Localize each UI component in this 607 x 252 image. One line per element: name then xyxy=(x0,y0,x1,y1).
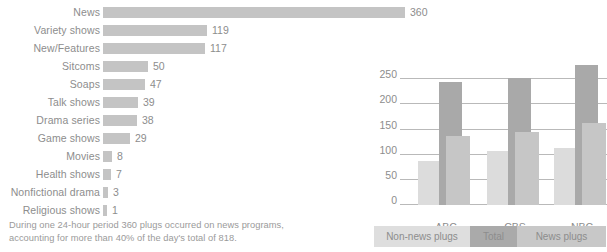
hbar-value-label: 39 xyxy=(143,97,155,108)
hbar-value-label: 1 xyxy=(112,205,118,216)
hbar-bar xyxy=(103,43,205,54)
legend-item-total: Total xyxy=(470,226,517,247)
hbar-bar xyxy=(103,133,130,144)
hbar-value-label: 29 xyxy=(135,133,147,144)
y-axis-tick-label: 250 xyxy=(379,68,397,80)
hbar-row: News 360 xyxy=(0,4,440,21)
y-axis-tick-label: 50 xyxy=(385,169,397,181)
hbar-value-label: 360 xyxy=(410,7,428,18)
hbar-value-label: 7 xyxy=(116,169,122,180)
hbar-category-label: Movies xyxy=(0,151,100,162)
y-axis-tick-label: 0 xyxy=(391,194,397,206)
hbar-value-label: 50 xyxy=(153,61,165,72)
column-bar-non-news-plugs xyxy=(487,151,508,205)
hbar-bar xyxy=(103,97,138,108)
y-axis-tick-label: 150 xyxy=(379,119,397,131)
hbar-bar xyxy=(103,151,112,162)
hbar-category-label: News xyxy=(0,7,100,18)
hbar-bar xyxy=(103,169,111,180)
hbar-category-label: Talk shows xyxy=(0,97,100,108)
legend-item-non-news-plugs: Non-news plugs xyxy=(374,226,470,247)
y-axis-tick-label: 200 xyxy=(379,93,397,105)
column-group-abc xyxy=(418,58,474,205)
column-group-nbc xyxy=(554,58,607,205)
hbar-bar xyxy=(103,115,137,126)
hbar-category-label: Variety shows xyxy=(0,25,100,36)
column-bar-news-plugs xyxy=(582,123,606,205)
chart-legend: Non-news plugs Total News plugs xyxy=(374,226,606,247)
hbar-category-label: Religious shows xyxy=(0,205,100,216)
hbar-bar xyxy=(103,25,207,36)
hbar-value-label: 117 xyxy=(210,43,227,54)
caption-line-2: accounting for more than 40% of the day'… xyxy=(9,232,354,245)
column-bar-non-news-plugs xyxy=(418,161,439,205)
column-group-cbs xyxy=(487,58,543,205)
hbar-row: Variety shows 119 xyxy=(0,22,440,39)
legend-label: Non-news plugs xyxy=(386,231,458,242)
hbar-value-label: 3 xyxy=(113,187,119,198)
hbar-value-label: 38 xyxy=(142,115,154,126)
column-chart: 250 200 150 100 50 0 xyxy=(374,46,607,252)
legend-label: News plugs xyxy=(536,231,588,242)
hbar-value-label: 119 xyxy=(212,25,229,36)
hbar-bar xyxy=(103,61,148,72)
hbar-value-label: 8 xyxy=(117,151,123,162)
column-chart-plot-area: 250 200 150 100 50 0 xyxy=(400,58,607,205)
legend-label: Total xyxy=(483,231,504,242)
hbar-track: 119 xyxy=(103,22,440,39)
hbar-category-label: Nonfictional drama xyxy=(0,187,100,198)
hbar-bar xyxy=(103,7,405,18)
column-bar-news-plugs xyxy=(515,132,539,205)
hbar-value-label: 47 xyxy=(150,79,162,90)
hbar-bar xyxy=(103,205,107,216)
legend-item-news-plugs: News plugs xyxy=(517,226,606,247)
hbar-category-label: Soaps xyxy=(0,79,100,90)
column-bar-news-plugs xyxy=(446,136,470,205)
hbar-category-label: New/Features xyxy=(0,43,100,54)
column-bar-non-news-plugs xyxy=(554,148,575,205)
chart-caption: During one 24-hour period 360 plugs occu… xyxy=(9,219,354,244)
caption-line-1: During one 24-hour period 360 plugs occu… xyxy=(9,219,354,232)
hbar-category-label: Sitcoms xyxy=(0,61,100,72)
hbar-bar xyxy=(103,79,145,90)
y-axis-tick-label: 100 xyxy=(379,144,397,156)
hbar-category-label: Health shows xyxy=(0,169,100,180)
hbar-category-label: Drama series xyxy=(0,115,100,126)
hbar-track: 360 xyxy=(103,4,440,21)
hbar-category-label: Game shows xyxy=(0,133,100,144)
hbar-bar xyxy=(103,187,108,198)
